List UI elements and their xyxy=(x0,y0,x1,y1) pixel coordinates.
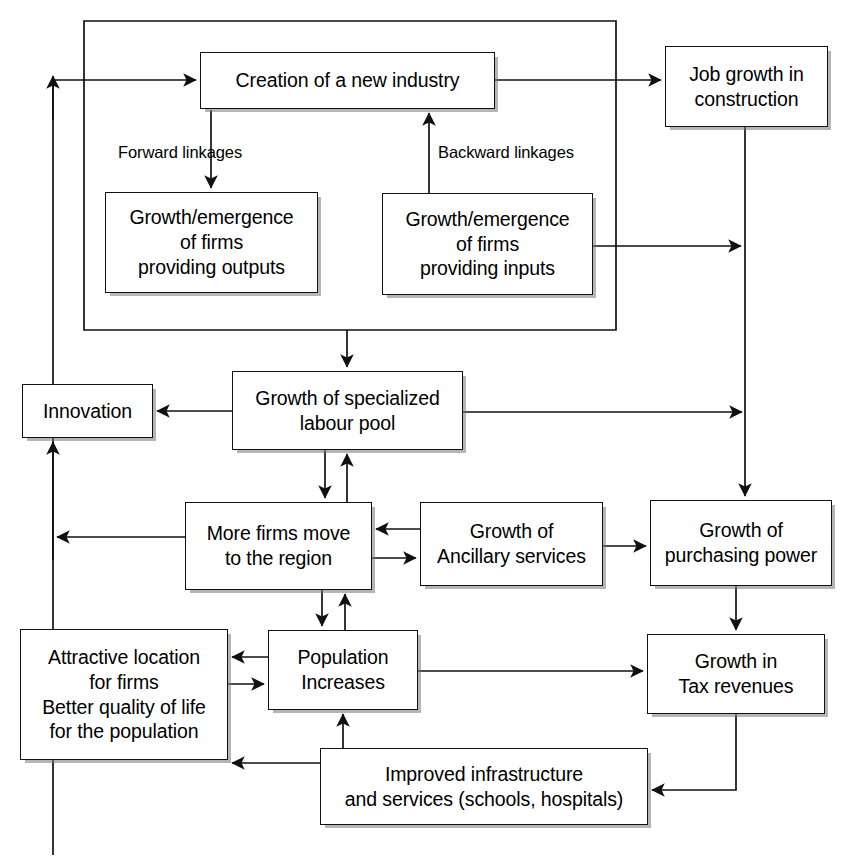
node-population-increases[interactable]: Population Increases xyxy=(268,630,418,710)
node-improved-infrastructure-and-services[interactable]: Improved infrastructure and services (sc… xyxy=(320,748,648,825)
node-label: Growth of specialized labour pool xyxy=(250,386,444,436)
edge-label-forward-linkages: Forward linkages xyxy=(118,143,242,163)
node-label: Growth/emergence of firms providing outp… xyxy=(124,205,298,280)
node-more-firms-move-to-the-region[interactable]: More firms move to the region xyxy=(185,502,372,590)
node-firms-providing-inputs[interactable]: Growth/emergence of firms providing inpu… xyxy=(382,193,593,295)
node-job-growth-in-construction[interactable]: Job growth in construction xyxy=(665,46,828,127)
node-firms-providing-outputs[interactable]: Growth/emergence of firms providing outp… xyxy=(105,192,318,293)
edge-label-backward-linkages: Backward linkages xyxy=(438,143,574,163)
node-creation-of-a-new-industry[interactable]: Creation of a new industry xyxy=(200,52,495,109)
node-label: Innovation xyxy=(38,399,137,424)
node-innovation[interactable]: Innovation xyxy=(22,384,153,438)
node-label: Attractive location for firms Better qua… xyxy=(37,645,211,745)
node-label: Creation of a new industry xyxy=(231,68,465,93)
node-growth-of-purchasing-power[interactable]: Growth of purchasing power xyxy=(650,500,832,586)
node-label: Improved infrastructure and services (sc… xyxy=(340,762,629,812)
node-label: Growth/emergence of firms providing inpu… xyxy=(400,207,574,282)
node-label: Growth of purchasing power xyxy=(660,518,822,568)
node-growth-of-ancillary-services[interactable]: Growth of Ancillary services xyxy=(420,502,603,586)
node-label: More firms move to the region xyxy=(202,521,356,571)
flowchart-diagram: Creation of a new industry Job growth in… xyxy=(0,0,861,859)
node-label: Growth of Ancillary services xyxy=(432,519,591,569)
node-growth-in-tax-revenues[interactable]: Growth in Tax revenues xyxy=(647,634,825,714)
node-label: Job growth in construction xyxy=(684,62,809,112)
edge-tax-revenues-to-infrastructure xyxy=(652,714,736,790)
node-growth-of-specialized-labour-pool[interactable]: Growth of specialized labour pool xyxy=(232,371,463,450)
node-attractive-location-for-firms[interactable]: Attractive location for firms Better qua… xyxy=(20,629,228,760)
node-label: Population Increases xyxy=(292,645,393,695)
node-label: Growth in Tax revenues xyxy=(674,649,799,699)
